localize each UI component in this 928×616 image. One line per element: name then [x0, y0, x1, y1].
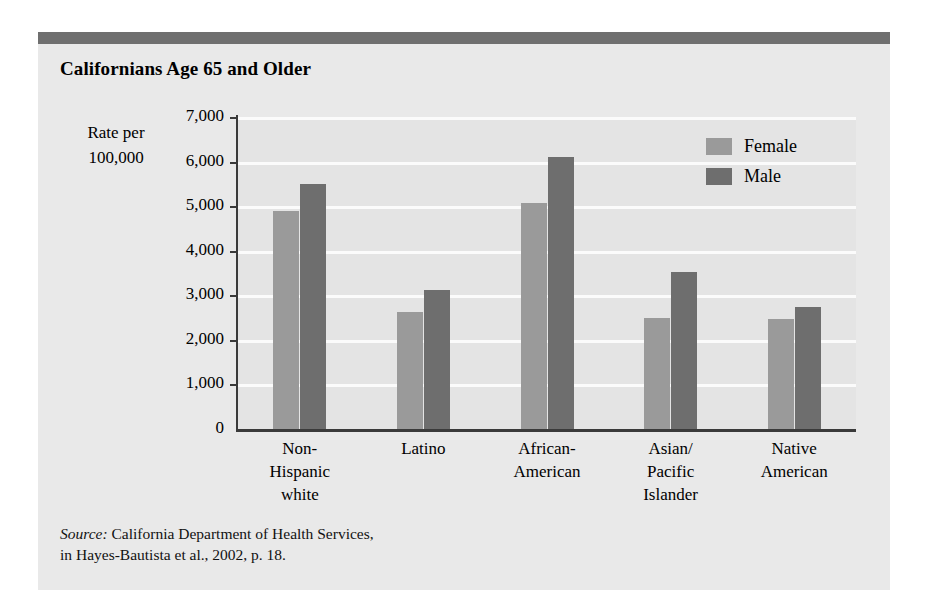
x-axis-category-label-line: Non-: [238, 437, 362, 460]
y-axis-tick-label: 0: [150, 418, 224, 438]
x-axis-category-label-line: Hispanic: [238, 460, 362, 483]
x-axis-category-label-line: American: [485, 460, 609, 483]
x-axis-category-label: Asian/PacificIslander: [609, 437, 733, 506]
source-note-line-1: Source: California Department of Health …: [60, 523, 374, 544]
legend-label-male: Male: [744, 166, 781, 187]
legend-label-female: Female: [744, 136, 797, 157]
source-text-1: California Department of Health Services…: [108, 525, 374, 542]
y-axis-tick-mark: [230, 117, 237, 119]
figure-root: Californians Age 65 and Older Rate per 1…: [0, 0, 928, 616]
legend-swatch-female-icon: [706, 138, 732, 155]
bar-female: [273, 211, 299, 429]
source-label: Source:: [60, 525, 108, 542]
y-axis-tick-mark: [230, 162, 237, 164]
bar-male: [300, 184, 326, 429]
chart-title: Californians Age 65 and Older: [60, 58, 311, 80]
panel-header-rule: [38, 32, 890, 44]
legend-item-male: Male: [706, 161, 797, 191]
legend-item-female: Female: [706, 131, 797, 161]
source-note-line-2: in Hayes-Bautista et al., 2002, p. 18.: [60, 544, 374, 565]
y-axis-tick-label: 4,000: [150, 240, 224, 260]
source-note: Source: California Department of Health …: [60, 523, 374, 565]
bar-female: [521, 203, 547, 429]
x-axis-category-label-line: American: [732, 460, 856, 483]
bar-female: [644, 318, 670, 429]
bar-male: [671, 272, 697, 429]
y-axis-tick-label: 1,000: [150, 373, 224, 393]
y-axis-tick-label: 3,000: [150, 284, 224, 304]
x-axis-category-label-line: Islander: [609, 483, 733, 506]
y-axis-tick-mark: [230, 206, 237, 208]
bar-male: [424, 290, 450, 429]
gridline: [238, 117, 856, 120]
y-axis-tick-mark: [230, 384, 237, 386]
legend-swatch-male-icon: [706, 168, 732, 185]
x-axis-category-label-line: Asian/: [609, 437, 733, 460]
chart-legend: Female Male: [706, 131, 797, 191]
y-axis-tick-label: 2,000: [150, 329, 224, 349]
x-axis-category-label-line: white: [238, 483, 362, 506]
x-axis-category-label: NativeAmerican: [732, 437, 856, 483]
y-axis-tick-label: 5,000: [150, 195, 224, 215]
bar-male: [548, 157, 574, 429]
y-axis-tick-label: 7,000: [150, 106, 224, 126]
y-axis-tick-mark: [230, 251, 237, 253]
bar-male: [795, 307, 821, 429]
x-axis-category-label-line: African-: [485, 437, 609, 460]
x-axis-category-label-line: Native: [732, 437, 856, 460]
bar-female: [397, 312, 423, 429]
y-axis-tick-mark: [230, 295, 237, 297]
y-axis-tick-label: 6,000: [150, 151, 224, 171]
x-axis-line: [236, 429, 856, 432]
x-axis-category-label-line: Latino: [362, 437, 486, 460]
y-axis-tick-mark: [230, 340, 237, 342]
x-axis-category-label: Non-Hispanicwhite: [238, 437, 362, 506]
bar-female: [768, 319, 794, 429]
x-axis-category-label: Latino: [362, 437, 486, 460]
x-axis-category-label-line: Pacific: [609, 460, 733, 483]
x-axis-category-label: African-American: [485, 437, 609, 483]
